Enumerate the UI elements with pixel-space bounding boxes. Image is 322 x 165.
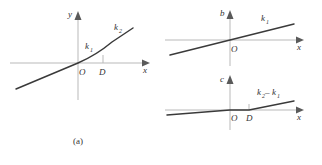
panel-a-y-axis-arrow [75, 11, 82, 20]
panel-a-y-axis-label: y [67, 9, 72, 19]
panel-a-slope-k1-subscript: 1 [90, 47, 93, 53]
panel-b-top-slope-k1-subscript: 1 [266, 19, 269, 25]
panel-b-top-x-axis-label: x [296, 42, 301, 52]
panel-a-origin-label: O [79, 67, 86, 77]
panel-b-bottom-y-axis-label: c [220, 74, 224, 84]
panel-b-bottom-slope-minus-sign: – [264, 87, 270, 97]
panel-b-bottom-point-d-label: D [245, 113, 253, 123]
panel-b-bottom-x-axis-label: x [296, 112, 301, 122]
panel-a-x-axis-label: x [142, 65, 147, 75]
panel-b-top-y-axis-arrow [227, 10, 234, 19]
panel-b: b x O k 1 c x O D k 2 – k 1 (b) [161, 0, 322, 165]
panel-a-point-d-label: D [98, 67, 106, 77]
panel-b-bottom-origin-label: O [231, 113, 238, 123]
panel-a-slope-k2-subscript: 2 [119, 28, 122, 34]
panel-b-bottom-slope-k1-subscript: 1 [277, 93, 280, 99]
figure-root: y x O D k 1 k 2 (a) b x O k 1 [0, 0, 322, 165]
panel-b-bottom-y-axis-arrow [227, 75, 234, 84]
panel-b-top-plot: b x O k 1 [161, 4, 322, 70]
panel-a: y x O D k 1 k 2 (a) [0, 0, 161, 165]
panel-a-caption: (a) [58, 136, 98, 146]
panel-b-top-origin-label: O [231, 44, 238, 54]
panel-b-top-y-axis-label: b [220, 8, 225, 18]
panel-a-curve [16, 28, 133, 89]
panel-b-bottom-plot: c x O D k 2 – k 1 [161, 70, 322, 136]
panel-a-plot: y x O D k 1 k 2 [0, 0, 161, 132]
